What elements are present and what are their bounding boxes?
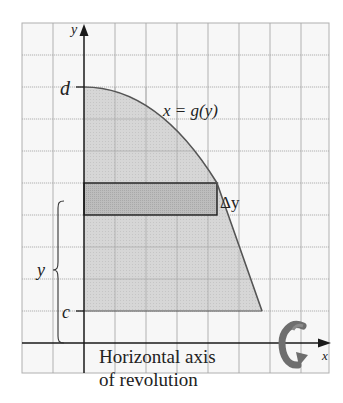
brace-label-y: y — [35, 260, 45, 280]
label-c: c — [62, 302, 70, 322]
caption-line-2: of revolution — [99, 369, 198, 390]
curve-label: x = g(y) — [162, 101, 218, 120]
caption-line-1: Horizontal axis — [99, 346, 216, 367]
disk-method-diagram: y x d c x = g(y) Δy y Horizontal axis of… — [0, 0, 343, 403]
label-d: d — [60, 77, 71, 99]
x-axis-label: x — [321, 348, 328, 363]
representative-rectangle — [84, 183, 217, 215]
delta-y-label: Δy — [220, 193, 240, 212]
y-axis-label: y — [69, 22, 78, 37]
